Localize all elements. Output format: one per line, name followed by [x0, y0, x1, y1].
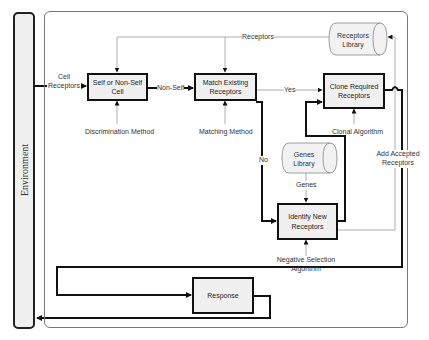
immune-system-diagram: Environment Self or Non-Self Cell Match …: [0, 0, 429, 340]
clonal-algorithm-label: Clonal Algorithm: [332, 128, 383, 137]
negative-selection-label: Negative Selection Algorithm: [276, 256, 336, 274]
no-label: No: [259, 156, 268, 165]
clone-required-box[interactable]: Clone Required Receptors: [323, 73, 385, 109]
non-self-label: Non-Self: [157, 84, 184, 93]
yes-label: Yes: [284, 86, 295, 95]
genes-library-label: Genes Library: [286, 150, 322, 168]
response-box[interactable]: Response: [192, 277, 254, 314]
receptors-library-label: Receptors Library: [333, 31, 373, 49]
cell-receptors-label: Cell Receptors: [47, 73, 81, 91]
match-existing-box[interactable]: Match Existing Receptors: [194, 73, 257, 101]
matching-method-label: Matching Method: [199, 128, 253, 137]
receptors-label: Receptors: [242, 33, 274, 42]
genes-label: Genes: [296, 181, 317, 190]
identify-new-box[interactable]: Identify New Receptors: [277, 203, 338, 240]
add-accepted-receptors-label: Add Accepted Receptors: [372, 150, 424, 168]
discrimination-method-label: Discrimination Method: [85, 128, 154, 137]
self-nonself-box[interactable]: Self or Non-Self Cell: [87, 73, 148, 101]
environment-label: Environment: [19, 144, 30, 196]
